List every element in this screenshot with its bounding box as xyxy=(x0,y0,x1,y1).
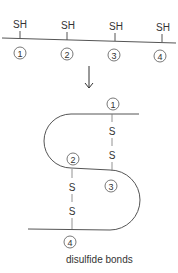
folded-number-label-2: 2 xyxy=(70,155,75,165)
caption: disulfide bonds xyxy=(66,254,133,265)
number-label-3: 3 xyxy=(111,51,116,61)
sh-label-4: SH xyxy=(156,22,170,33)
s-atom-1: S xyxy=(109,126,116,137)
sh-label-1: SH xyxy=(13,19,27,30)
s-atom-4: S xyxy=(69,206,76,217)
down-arrow-icon xyxy=(85,66,93,88)
number-label-1: 1 xyxy=(17,49,22,59)
sh-label-2: SH xyxy=(61,20,75,31)
disulfide-bond-diagram: SH 1 SH 2 SH 3 SH 4 1 S S 2 3 S S 4 disu… xyxy=(0,0,178,273)
s-atom-2: S xyxy=(109,150,116,161)
s-atom-3: S xyxy=(69,182,76,193)
folded-number-label-4: 4 xyxy=(67,238,72,248)
number-label-2: 2 xyxy=(64,50,69,60)
number-label-4: 4 xyxy=(157,52,162,62)
polypeptide-chain-linear xyxy=(2,38,176,43)
folded-number-label-1: 1 xyxy=(110,100,115,110)
folded-number-label-3: 3 xyxy=(108,182,113,192)
polypeptide-chain-folded xyxy=(28,114,140,230)
sh-label-3: SH xyxy=(109,21,123,32)
